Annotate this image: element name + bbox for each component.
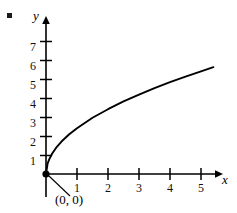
function-curve — [46, 67, 213, 174]
annotation-leader-line — [49, 176, 70, 196]
graph-svg — [0, 0, 237, 213]
figure-canvas: y x 7 6 5 4 3 2 1 1 2 3 4 5 (0, 0) — [0, 0, 237, 213]
origin-point-marker — [42, 170, 49, 177]
axis-lines — [42, 16, 223, 197]
